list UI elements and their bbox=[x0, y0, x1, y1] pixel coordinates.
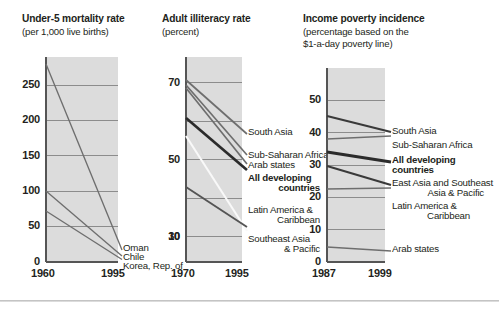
x-tick-1960: 1960 bbox=[31, 267, 55, 279]
chart-panel-income-poverty: Income poverty incidence (percentage bas… bbox=[295, 0, 499, 309]
x-tick-1970: 1970 bbox=[171, 267, 195, 279]
series-label-asia-pacific: Asia & Pacific bbox=[392, 188, 484, 199]
chart-title-block: Income poverty incidence (percentage bas… bbox=[303, 13, 425, 50]
y-tick-0: 0 bbox=[0, 255, 40, 267]
x-tick-1995: 1995 bbox=[101, 267, 125, 279]
series-label-all-developing-countries: countries bbox=[392, 165, 434, 176]
y-tick-70: 70 bbox=[138, 76, 180, 88]
plot-background bbox=[46, 57, 118, 262]
figure-root: Under-5 mortality rate (per 1,000 live b… bbox=[0, 0, 499, 309]
x-tick-1995: 1995 bbox=[225, 267, 249, 279]
series-label-south-asia: South Asia bbox=[392, 126, 436, 137]
y-tick-10-panel1: 10 bbox=[138, 230, 180, 242]
plot-area-under5-mortality: 250 200 150 100 50 0 1960 1995 Oman Chil… bbox=[22, 57, 144, 277]
series-label-sub-saharan-africa: Sub-Saharan Africa bbox=[392, 140, 472, 151]
y-tick-10: 10 bbox=[279, 223, 321, 235]
x-tick-1999: 1999 bbox=[368, 267, 392, 279]
series-line-latin-america-caribbean bbox=[327, 188, 391, 189]
y-tick-30: 30 bbox=[279, 158, 321, 170]
chart-subtitle: (percent) bbox=[162, 26, 251, 38]
y-tick-250: 250 bbox=[0, 78, 40, 90]
chart-title-block: Adult illiteracy rate (percent) bbox=[162, 13, 251, 38]
y-tick-0: 0 bbox=[279, 255, 321, 267]
y-tick-150: 150 bbox=[0, 149, 40, 161]
chart-subtitle-line1: (percentage based on the bbox=[303, 26, 425, 38]
bottom-divider bbox=[0, 300, 499, 302]
y-tick-20: 20 bbox=[279, 190, 321, 202]
y-tick-50: 50 bbox=[0, 219, 40, 231]
chart-subtitle: (per 1,000 live births) bbox=[22, 26, 125, 38]
series-label-arab-states: Arab states bbox=[392, 244, 439, 255]
series-label-caribbean: Caribbean bbox=[392, 211, 470, 222]
plot-area-income-poverty: 50 40 30 20 10 0 1987 1999 South Asia Su… bbox=[303, 68, 485, 277]
y-tick-40: 40 bbox=[279, 126, 321, 138]
x-tick-1987: 1987 bbox=[312, 267, 336, 279]
page-title: Adult illiteracy rate bbox=[162, 13, 251, 26]
chart-subtitle-line2: $1-a-day poverty line) bbox=[303, 38, 425, 50]
y-tick-100: 100 bbox=[0, 184, 40, 196]
page-title: Under-5 mortality rate bbox=[22, 13, 125, 26]
y-tick-50: 50 bbox=[279, 93, 321, 105]
chart-panel-under5-mortality: Under-5 mortality rate (per 1,000 live b… bbox=[0, 0, 160, 309]
chart-title-block: Under-5 mortality rate (per 1,000 live b… bbox=[22, 13, 125, 38]
plot-area-adult-illiteracy: 70 50 30 1970 1995 South Asia Sub-Sahara… bbox=[162, 57, 288, 277]
y-tick-200: 200 bbox=[0, 113, 40, 125]
page-title: Income poverty incidence bbox=[303, 13, 425, 26]
y-tick-50: 50 bbox=[138, 153, 180, 165]
